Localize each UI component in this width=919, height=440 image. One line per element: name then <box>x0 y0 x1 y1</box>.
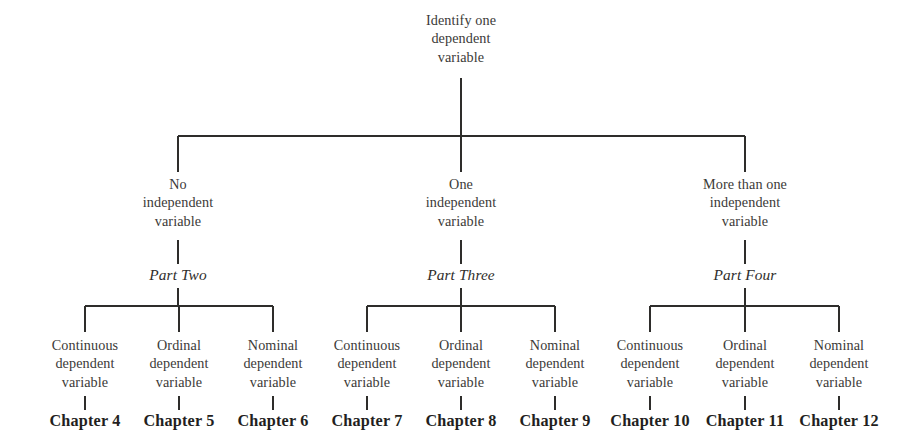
part-label-four: Part Four <box>665 265 825 285</box>
branch-node-more-than-one-independent-variable: More than one independent variable <box>660 175 830 230</box>
leaf-node-nominal-part-four: Nominal dependent variable <box>779 336 899 391</box>
root-node: Identify one dependent variable <box>381 11 541 66</box>
part-label-three: Part Three <box>381 265 541 285</box>
flowchart-diagram: Identify one dependent variable No indep… <box>0 0 919 440</box>
branch-node-no-independent-variable: No independent variable <box>98 175 258 230</box>
part-label-two: Part Two <box>98 265 258 285</box>
chapter-label-12: Chapter 12 <box>774 411 904 432</box>
branch-node-one-independent-variable: One independent variable <box>381 175 541 230</box>
